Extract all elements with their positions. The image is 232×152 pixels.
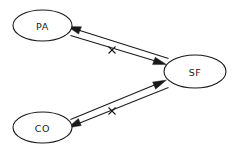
diagram-svg: PA SF CO — [0, 0, 232, 152]
edge-sf-to-co — [68, 88, 169, 129]
node-pa[interactable]: PA — [13, 10, 72, 41]
node-co[interactable]: CO — [13, 112, 72, 143]
edge-line-sf-to-co — [74, 88, 169, 126]
edge-line-sf-to-pa — [74, 29, 169, 59]
node-pa-label: PA — [36, 21, 49, 32]
node-sf-label: SF — [189, 67, 202, 78]
edge-group-co-sf — [68, 80, 169, 128]
edge-co-to-sf — [71, 80, 167, 120]
arrowhead-at-sf-from-co — [153, 80, 167, 89]
path-diagram-canvas: PA SF CO — [0, 0, 232, 152]
edge-group-pa-sf — [68, 27, 169, 65]
edge-pa-to-sf — [71, 36, 167, 65]
node-co-label: CO — [35, 123, 50, 134]
edge-line-pa-to-sf — [71, 36, 161, 63]
arrowhead-at-sf-from-pa — [153, 57, 167, 64]
edge-sf-to-pa — [68, 27, 169, 59]
node-sf[interactable]: SF — [164, 55, 226, 88]
